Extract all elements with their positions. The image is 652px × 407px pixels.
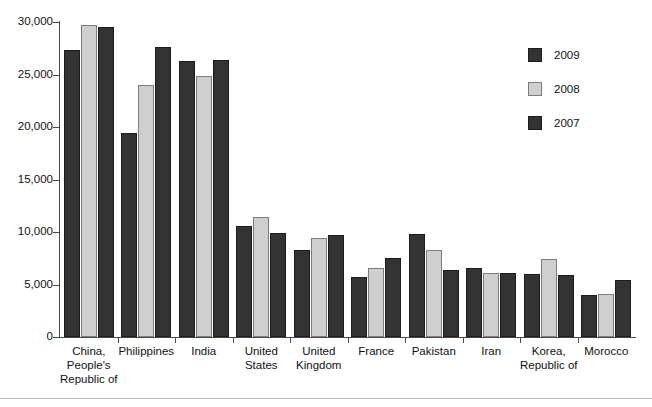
y-axis-tick-mark xyxy=(53,232,60,233)
bar-group xyxy=(175,22,233,337)
bar[interactable] xyxy=(294,250,310,337)
y-axis-tick-mark xyxy=(53,285,60,286)
x-axis-group-tick xyxy=(520,338,521,343)
x-axis-group-tick xyxy=(118,338,119,343)
bar[interactable] xyxy=(466,268,482,337)
x-axis-group-tick xyxy=(175,338,176,343)
bar-group xyxy=(405,22,463,337)
bar-group-bars xyxy=(463,22,521,337)
legend-swatch-icon xyxy=(528,116,542,130)
bar[interactable] xyxy=(236,226,252,337)
bar-group-bars xyxy=(175,22,233,337)
x-axis-group-tick xyxy=(233,338,234,343)
bar[interactable] xyxy=(196,76,212,337)
legend-label: 2009 xyxy=(554,49,580,61)
bar[interactable] xyxy=(138,85,154,337)
y-axis-tick-label: 30,000 xyxy=(1,15,53,27)
footer-divider xyxy=(0,398,652,399)
bar[interactable] xyxy=(311,238,327,337)
bar-group xyxy=(60,22,118,337)
bar[interactable] xyxy=(213,60,229,337)
legend-swatch-icon xyxy=(528,82,542,96)
bar-group xyxy=(233,22,291,337)
legend-item[interactable]: 2007 xyxy=(528,106,638,140)
bar[interactable] xyxy=(368,268,384,337)
y-axis-tick-mark xyxy=(53,127,60,128)
bar-group xyxy=(118,22,176,337)
bar[interactable] xyxy=(541,259,557,337)
bar[interactable] xyxy=(581,295,597,337)
y-axis-tick-label: 5,000 xyxy=(1,278,53,290)
y-axis-tick-mark xyxy=(53,75,60,76)
x-axis-group-tick xyxy=(348,338,349,343)
chart-page: 05,00010,00015,00020,00025,00030,000 Chi… xyxy=(0,0,652,407)
y-axis-tick-label: 10,000 xyxy=(1,225,53,237)
legend-item[interactable]: 2009 xyxy=(528,38,638,72)
category-label-line: People's xyxy=(50,358,128,372)
legend-label: 2007 xyxy=(554,117,580,129)
bar-group xyxy=(463,22,521,337)
y-axis-tick-mark xyxy=(53,337,60,338)
bar[interactable] xyxy=(524,274,540,337)
bar[interactable] xyxy=(385,258,401,337)
x-axis-group-tick xyxy=(463,338,464,343)
bar[interactable] xyxy=(155,47,171,337)
category-label-line: Republic of xyxy=(50,372,128,386)
bar-group-bars xyxy=(348,22,406,337)
y-axis-tick-label: 25,000 xyxy=(1,68,53,80)
y-axis-tick-label: 20,000 xyxy=(1,120,53,132)
y-axis-tick-mark xyxy=(53,22,60,23)
bar[interactable] xyxy=(351,277,367,337)
bar-group-bars xyxy=(118,22,176,337)
bar[interactable] xyxy=(615,280,631,337)
bar[interactable] xyxy=(500,273,516,337)
bar[interactable] xyxy=(179,61,195,337)
bar-group-bars xyxy=(233,22,291,337)
bar[interactable] xyxy=(426,250,442,337)
x-axis-group-tick xyxy=(405,338,406,343)
chart-title xyxy=(0,0,652,3)
category-label-line: Morocco xyxy=(568,344,646,358)
bar[interactable] xyxy=(409,234,425,337)
x-axis-category-label: Morocco xyxy=(568,344,646,358)
bar[interactable] xyxy=(64,50,80,337)
legend-label: 2008 xyxy=(554,83,580,95)
bar[interactable] xyxy=(483,273,499,337)
y-axis-tick-label: 0 xyxy=(1,330,53,342)
bar-group-bars xyxy=(290,22,348,337)
y-axis-tick-label: 15,000 xyxy=(1,173,53,185)
chart-legend: 200920082007 xyxy=(528,38,638,140)
y-axis-labels: 05,00010,00015,00020,00025,00030,000 xyxy=(0,0,53,407)
bar[interactable] xyxy=(98,27,114,337)
bar[interactable] xyxy=(253,217,269,337)
bar[interactable] xyxy=(81,25,97,337)
bar-group xyxy=(348,22,406,337)
bar-group-bars xyxy=(60,22,118,337)
category-label-line: Republic of xyxy=(510,358,588,372)
bar[interactable] xyxy=(598,294,614,337)
legend-swatch-icon xyxy=(528,48,542,62)
bar-group-bars xyxy=(405,22,463,337)
x-axis-group-tick xyxy=(290,338,291,343)
category-label-line: Kingdom xyxy=(280,358,358,372)
bar[interactable] xyxy=(558,275,574,337)
legend-item[interactable]: 2008 xyxy=(528,72,638,106)
x-axis-group-tick xyxy=(578,338,579,343)
bar[interactable] xyxy=(121,133,137,337)
bar-group xyxy=(290,22,348,337)
bar[interactable] xyxy=(270,233,286,337)
bar[interactable] xyxy=(443,270,459,337)
bar[interactable] xyxy=(328,235,344,337)
y-axis-tick-mark xyxy=(53,180,60,181)
